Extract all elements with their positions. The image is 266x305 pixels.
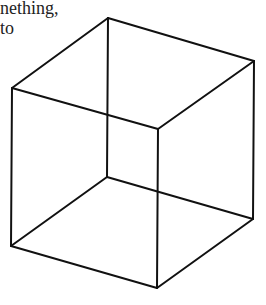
edge bbox=[158, 61, 254, 129]
edge bbox=[108, 18, 254, 61]
edge bbox=[157, 129, 158, 288]
edge bbox=[107, 177, 253, 219]
edge bbox=[12, 18, 108, 88]
necker-cube-figure: nething, to bbox=[0, 0, 266, 305]
edge bbox=[11, 177, 107, 246]
edge bbox=[253, 61, 254, 219]
edge bbox=[12, 88, 158, 129]
cube-wireframe bbox=[0, 0, 266, 305]
edge bbox=[107, 18, 108, 177]
edge bbox=[11, 246, 157, 288]
edge bbox=[157, 219, 253, 288]
edge bbox=[11, 88, 12, 246]
